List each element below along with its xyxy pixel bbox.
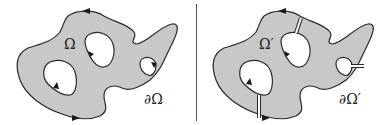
panel-divider xyxy=(196,4,197,121)
arrow-icon xyxy=(53,82,59,89)
boundary-label-omega-prime: ∂Ω′ xyxy=(339,92,361,106)
arrow-icon xyxy=(246,78,252,85)
region-label-omega: Ω xyxy=(64,37,76,51)
boundary-label-omega: ∂Ω xyxy=(144,92,163,106)
region-label-omega-prime: Ω′ xyxy=(259,37,274,51)
